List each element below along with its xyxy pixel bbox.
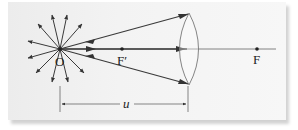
- object-point-O: [58, 47, 62, 51]
- ray-diagram: O F′ F u: [0, 0, 298, 130]
- focal-point-F-prime: [120, 47, 124, 51]
- rays-to-lens: [60, 14, 188, 84]
- label-u: u: [123, 96, 130, 111]
- converging-lens: [180, 13, 199, 85]
- label-F-prime: F′: [117, 53, 127, 68]
- label-O: O: [55, 54, 64, 69]
- label-F: F: [253, 52, 260, 67]
- focal-point-F: [255, 47, 259, 51]
